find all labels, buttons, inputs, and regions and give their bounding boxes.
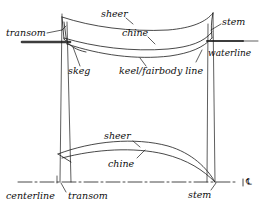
hull-lines-diagram: transom sheer chine stem waterline skeg …	[0, 0, 264, 205]
plan-sheer-line	[58, 141, 215, 182]
label-plan-stem: stem	[188, 189, 211, 200]
leader-profile-transom	[47, 30, 62, 33]
leader-profile-stem	[211, 24, 221, 30]
leader-plan-transom	[61, 183, 66, 192]
label-keel-fairbody-line: keel/fairbody line	[119, 65, 203, 76]
projection-line-stem-outer	[213, 13, 215, 182]
projection-line-transom-inner	[67, 22, 71, 182]
centerline-symbol: ℄	[245, 177, 252, 187]
label-profile-transom: transom	[6, 27, 46, 38]
leader-plan-chine	[137, 150, 145, 158]
label-plan-centerline: centerline	[6, 190, 55, 201]
label-plan-chine: chine	[108, 158, 135, 169]
label-profile-sheer: sheer	[101, 8, 129, 19]
leader-plan-stem	[211, 183, 216, 190]
label-plan-transom: transom	[68, 190, 108, 201]
label-profile-chine: chine	[122, 27, 149, 38]
label-profile-stem: stem	[222, 16, 245, 27]
hull-drawing-canvas: transom sheer chine stem waterline skeg …	[0, 0, 264, 205]
leader-plan-sheer	[133, 141, 140, 147]
label-waterline: waterline	[208, 48, 251, 58]
leader-profile-chine	[148, 37, 155, 44]
label-plan-sheer: sheer	[104, 130, 132, 141]
profile-keel-line	[67, 38, 212, 57]
leader-keel-right	[196, 50, 202, 62]
plan-chine-line	[62, 150, 215, 182]
label-skeg: skeg	[68, 65, 90, 76]
projection-line-transom-outer	[60, 14, 62, 182]
